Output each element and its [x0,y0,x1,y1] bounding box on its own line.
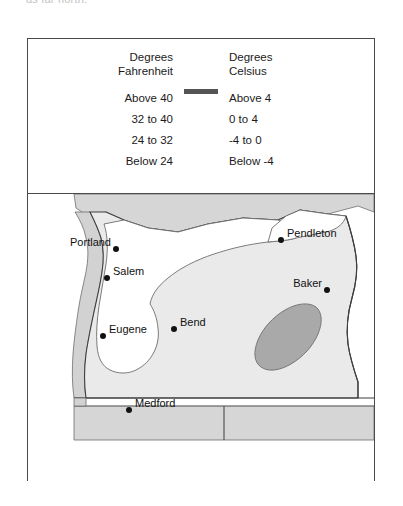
legend-swatch-column [184,89,218,94]
city-label-bend: Bend [180,316,206,328]
city-dot-portland [113,246,119,252]
legend-grid: Degrees Fahrenheit Degrees Celsius Above… [81,51,321,172]
legend-header-fahrenheit: Degrees Fahrenheit [81,51,173,88]
legend-label-fahrenheit-1: 32 to 40 [81,109,173,130]
city-label-portland: Portland [70,236,111,248]
figure-frame: Degrees Fahrenheit Degrees Celsius Above… [27,38,375,481]
legend-swatch-24-to-32 [185,92,217,93]
legend-panel: Degrees Fahrenheit Degrees Celsius Above… [28,39,374,194]
legend-header-celsius-line2: Celsius [229,65,321,79]
legend-label-celsius-3: Below -4 [229,151,321,172]
legend-header-celsius-line1: Degrees [229,51,272,63]
legend-label-celsius-2: -4 to 0 [229,130,321,151]
legend-label-fahrenheit-3: Below 24 [81,151,173,172]
city-label-eugene: Eugene [109,323,147,335]
legend-header-celsius: Degrees Celsius [229,51,321,88]
legend-header-fahrenheit-line2: Fahrenheit [81,65,173,79]
city-dot-pendleton [278,237,284,243]
coastal-strip-south [74,398,86,406]
oregon-temperature-map: Portland Salem Eugene Bend Medford Pendl… [28,194,374,481]
city-dot-medford [126,407,132,413]
city-label-pendleton: Pendleton [287,227,337,239]
city-label-salem: Salem [113,265,144,277]
city-label-medford: Medford [135,397,175,409]
legend-label-celsius-1: 0 to 4 [229,109,321,130]
city-dot-eugene [100,333,106,339]
city-dot-baker [324,287,330,293]
legend-label-fahrenheit-2: 24 to 32 [81,130,173,151]
map-panel: Portland Salem Eugene Bend Medford Pendl… [28,194,374,481]
cut-off-caption-text: as far north. [26,0,87,5]
city-label-baker: Baker [293,277,322,289]
city-dot-bend [171,326,177,332]
legend-header-fahrenheit-line1: Degrees [130,51,173,63]
legend-label-fahrenheit-0: Above 40 [81,88,173,109]
city-dot-salem [104,275,110,281]
legend-label-celsius-0: Above 4 [229,88,321,109]
